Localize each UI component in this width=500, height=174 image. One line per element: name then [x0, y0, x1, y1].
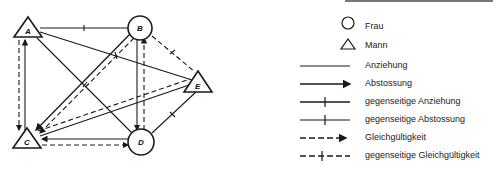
legend-label-mann: Mann	[365, 40, 388, 50]
edge-b-e	[152, 36, 195, 72]
legend-label-gegenseitige-anziehung: gegenseitige Anziehung	[365, 96, 461, 106]
legend-label-gegenseitige-abstossung: gegenseitige Abstossung	[365, 114, 465, 124]
legend-mann-icon	[341, 39, 355, 49]
node-e-label: E	[195, 82, 201, 91]
node-d-label: D	[138, 138, 144, 147]
edge-c-e	[40, 84, 192, 136]
legend-frau-icon	[342, 17, 354, 29]
node-a-label: A	[24, 27, 31, 36]
edge-b-c-dashed	[40, 38, 134, 133]
legend-label-anziehung: Anziehung	[365, 60, 408, 70]
legend-label-abstossung: Abstossung	[365, 78, 412, 88]
legend-symbols	[300, 17, 355, 161]
edge-d-e	[152, 92, 196, 133]
node-b-label: B	[137, 24, 143, 33]
sociogram-diagram: A B E C D	[0, 0, 500, 174]
legend-label-frau: Frau	[365, 21, 384, 31]
node-c-label: C	[24, 138, 30, 147]
edge-b-c	[36, 34, 130, 130]
edges	[19, 25, 196, 145]
node-labels: A B E C D	[24, 24, 201, 147]
legend-label-gegenseitige-gleichgueltigkeit: gegenseitige Gleichgültigkeit	[365, 150, 480, 160]
legend-label-gleichgueltigkeit: Gleichgültigkeit	[365, 132, 426, 142]
nodes	[13, 16, 212, 155]
